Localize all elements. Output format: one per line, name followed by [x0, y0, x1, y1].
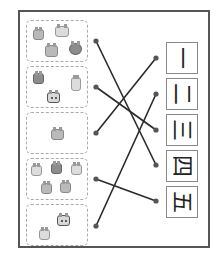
left-dot-4 — [93, 176, 98, 181]
right-dot-2 — [153, 91, 158, 96]
left-dot-1 — [93, 38, 98, 43]
match-line-1 — [96, 41, 156, 165]
match-line-3 — [96, 58, 156, 133]
match-line-5 — [96, 94, 156, 226]
match-line-4 — [96, 179, 156, 201]
right-dot-5 — [153, 198, 158, 203]
left-dot-3 — [93, 130, 98, 135]
matching-lines — [0, 0, 223, 256]
right-dot-3 — [153, 127, 158, 132]
right-dot-4 — [153, 162, 158, 167]
left-dot-2 — [93, 84, 98, 89]
left-dot-5 — [93, 223, 98, 228]
match-line-2 — [96, 87, 156, 130]
right-dot-1 — [153, 55, 158, 60]
